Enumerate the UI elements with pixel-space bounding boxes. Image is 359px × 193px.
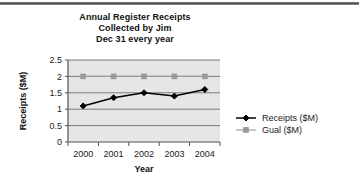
x-axis-tick-label: 2003 [164,149,184,159]
x-axis-tick-label: 2000 [73,149,93,159]
chart-legend: Receipts ($M)Gual ($M) [236,113,318,135]
x-axis-tick-label: 2004 [195,149,215,159]
legend-item[interactable]: Gual ($M) [236,125,302,135]
chart-plot: 00.511.522.5 20002001200220032004 Receip… [0,0,359,193]
data-point [202,74,207,79]
y-axis-tick-labels: 00.511.522.5 [49,55,62,147]
legend-item[interactable]: Receipts ($M) [236,113,318,123]
legend-marker [244,128,249,133]
plot-background [68,60,220,142]
y-axis-tick-label: 1.5 [49,88,62,98]
data-point [142,74,147,79]
y-axis-tick-label: 0 [57,137,62,147]
x-axis-title: Year [134,164,154,174]
legend-label: Gual ($M) [262,125,302,135]
data-point [111,74,116,79]
legend-marker [243,115,249,121]
data-point [172,74,177,79]
legend-label: Receipts ($M) [262,113,318,123]
y-axis-tick-label: 0.5 [49,121,62,131]
y-axis-tick-label: 1 [57,104,62,114]
x-axis-ticks [68,142,220,146]
x-axis-tick-label: 2001 [104,149,124,159]
y-axis-tick-label: 2 [57,72,62,82]
x-axis-tick-label: 2002 [134,149,154,159]
y-axis-tick-label: 2.5 [49,55,62,65]
plot-area [65,60,220,146]
chart-figure: Annual Register Receipts Collected by Ji… [0,0,359,193]
y-axis-title: Receipts ($M) [18,72,28,131]
x-axis-tick-labels: 20002001200220032004 [73,149,215,159]
data-point [81,74,86,79]
